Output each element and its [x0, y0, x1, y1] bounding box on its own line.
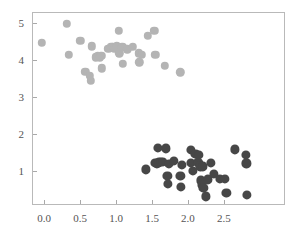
x-tick-label: 2.0	[173, 213, 203, 224]
x-tick-label: 2.5	[209, 213, 239, 224]
data-point	[176, 171, 185, 180]
data-point	[119, 60, 127, 68]
data-point	[141, 165, 150, 174]
data-points-layer	[33, 13, 284, 204]
data-point	[199, 183, 208, 192]
y-tick-label: 5	[2, 18, 24, 29]
y-tick-label: 2	[2, 129, 24, 140]
data-point	[202, 192, 211, 201]
data-point	[176, 68, 184, 76]
data-point	[160, 61, 168, 69]
data-point	[230, 145, 239, 154]
x-tick-label: 0.5	[65, 213, 95, 224]
data-point	[63, 20, 71, 28]
data-point	[98, 64, 106, 72]
scatter-plot-figure: 12345 0.00.51.01.52.02.5	[0, 0, 299, 236]
data-point	[88, 42, 96, 50]
data-point	[194, 150, 203, 159]
data-point	[220, 174, 229, 183]
data-point	[177, 160, 186, 169]
data-point	[242, 159, 251, 168]
y-tick-label: 1	[2, 165, 24, 176]
x-tick-label: 1.0	[101, 213, 131, 224]
data-point	[161, 144, 170, 153]
data-point	[176, 183, 185, 192]
data-point	[243, 191, 252, 200]
data-point	[76, 37, 84, 45]
data-point	[164, 180, 173, 189]
data-point	[206, 159, 215, 168]
data-point	[151, 51, 159, 59]
data-point	[150, 27, 158, 35]
x-tick-label: 0.0	[29, 213, 59, 224]
data-point	[222, 188, 231, 197]
data-point	[114, 27, 122, 35]
data-point	[97, 52, 105, 60]
x-tick-label: 1.5	[137, 213, 167, 224]
data-point	[137, 51, 145, 59]
data-point	[65, 51, 73, 59]
y-tick-label: 3	[2, 92, 24, 103]
data-point	[135, 58, 143, 66]
plot-area	[32, 12, 285, 205]
data-point	[86, 76, 94, 84]
y-tick-label: 4	[2, 55, 24, 66]
data-point	[37, 39, 45, 47]
